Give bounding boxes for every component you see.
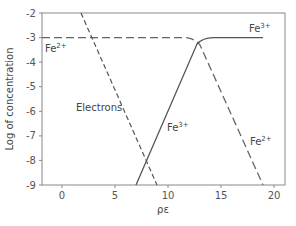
y-tick-label: -6 [26,106,36,117]
x-tick-label: 0 [59,190,65,201]
x-tick-label: 20 [268,190,281,201]
label-fe3-mid: Fe3+ [167,121,189,133]
y-tick-label: -9 [26,180,36,191]
label-fe3-right: Fe3+ [249,22,271,34]
label-fe2-right: Fe2+ [250,135,272,147]
y-tick-label: -8 [26,155,36,166]
x-tick-label: 15 [215,190,228,201]
series-fe3-line [136,38,263,185]
y-tick-label: -3 [26,32,36,43]
x-axis-title: ρε [157,204,169,215]
x-tick-label: 5 [112,190,118,201]
plot-frame [42,13,285,185]
y-tick-label: -2 [26,8,36,19]
label-fe2-left: Fe2+ [45,42,67,54]
y-axis-title: Log of concentration [4,47,15,150]
y-tick-label: -7 [26,130,36,141]
label-electrons: Electrons [76,102,122,113]
series-electrons-line [81,13,157,185]
y-tick-label: -4 [26,57,36,68]
chart: -2 -3 -4 -5 -6 -7 -8 -9 0 5 10 15 20 ρε … [0,0,296,226]
y-tick-labels: -2 -3 -4 -5 -6 -7 -8 -9 [26,8,36,191]
y-tick-label: -5 [26,81,36,92]
x-tick-labels: 0 5 10 15 20 [59,190,281,201]
x-tick-label: 10 [162,190,175,201]
